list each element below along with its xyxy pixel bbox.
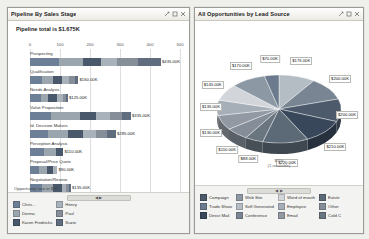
legend-color-swatch (13, 219, 20, 226)
close-icon[interactable] (180, 11, 186, 17)
pie-chart-area: $175.00K$200.00K$200.00K$210.00K$220.00K… (195, 21, 363, 177)
pie-center-count: (1 available) (268, 163, 291, 168)
bar-segment[interactable] (66, 94, 68, 102)
legend-item[interactable]: Henry (56, 201, 76, 208)
bar-segment[interactable] (51, 112, 80, 120)
bar-row[interactable]: Qualification$160.00K (30, 69, 187, 87)
legend-label: Paul (65, 211, 74, 216)
legend-item[interactable]: Chris... (13, 201, 52, 208)
bar-segment[interactable] (56, 148, 64, 156)
legend-item[interactable]: Cold C (319, 212, 341, 219)
legend-color-swatch (56, 201, 63, 208)
bar-row[interactable]: Id. Decision Makers$285.00K (30, 123, 187, 141)
bar-segment[interactable] (59, 58, 83, 66)
bar-track: $160.00K (30, 76, 97, 84)
legend-item[interactable]: Email (278, 212, 315, 219)
bar-segment[interactable] (53, 166, 58, 174)
bar-row[interactable]: Prospecting$435.00K (30, 51, 187, 69)
left-legend-bar: ◀ ▶ Chris...DonnaKaren FredricksHenryPau… (8, 192, 189, 233)
bar-row[interactable]: Needs Analysis$125.00K (30, 87, 187, 105)
bar-segment[interactable] (30, 58, 59, 66)
bar-segment[interactable] (39, 166, 47, 174)
bar-segment[interactable] (30, 130, 48, 138)
legend-color-swatch (236, 212, 243, 219)
legend-item[interactable]: Suzie (56, 219, 76, 226)
pipeline-by-sales-stage-panel: Pipeline By Sales Stage Pipeline total i… (7, 7, 190, 234)
bar-segment[interactable] (42, 76, 53, 84)
bar-value-label: $110.00K (65, 148, 83, 156)
bar-category-label: Negotiation/Review (30, 177, 67, 183)
legend-item[interactable]: Word of mouth (278, 194, 315, 201)
legend-item[interactable]: Conference (236, 212, 274, 219)
desktop-background: Pipeline By Sales Stage Pipeline total i… (0, 0, 369, 239)
bar-value-label: $135.00K (72, 184, 90, 192)
legend-item[interactable]: Self Generated (236, 203, 274, 210)
bar-segment[interactable] (41, 94, 49, 102)
bar-segment[interactable] (138, 58, 161, 66)
legend-item[interactable]: Employee (278, 203, 315, 210)
legend-item[interactable]: Donna (13, 210, 52, 217)
bar-segment[interactable] (107, 130, 116, 138)
legend-item[interactable]: Karen Fredricks (13, 219, 52, 226)
legend-item[interactable]: Other (319, 203, 341, 210)
bar-row[interactable]: Perception Analysis$110.00K (30, 141, 187, 159)
bar-segment[interactable] (44, 148, 56, 156)
bar-segment[interactable] (48, 130, 68, 138)
bar-row[interactable]: Proposal/Price Quote$90.00K (30, 159, 187, 177)
legend-color-swatch (278, 194, 285, 201)
pie-value-label: $145.00K (202, 81, 224, 89)
legend-item[interactable]: Existir (319, 194, 341, 201)
bar-category-label: Prospecting (30, 51, 53, 57)
restore-icon[interactable] (164, 11, 170, 17)
bar-segment[interactable] (96, 112, 110, 120)
bar-segment[interactable] (75, 76, 78, 84)
maximize-icon[interactable] (172, 11, 178, 17)
bar-segment[interactable] (30, 166, 39, 174)
legend-item[interactable]: Paul (56, 210, 76, 217)
bar-segment[interactable] (62, 76, 70, 84)
bar-category-label: Qualification (30, 69, 54, 75)
legend-label: Suzie (65, 220, 76, 225)
bar-segment[interactable] (30, 148, 44, 156)
bar-row[interactable]: Value Proposition$335.00K (30, 105, 187, 123)
maximize-icon[interactable] (346, 11, 352, 17)
bar-segment[interactable] (30, 112, 51, 120)
legend-color-swatch (56, 210, 63, 217)
bar-segment[interactable] (96, 130, 107, 138)
bar-segment[interactable] (68, 130, 83, 138)
bar-track: $125.00K (30, 94, 87, 102)
pie-value-label: $135.00K (200, 103, 222, 111)
right-panel-titlebar[interactable]: All Opportunities by Lead Source (195, 8, 363, 21)
bar-segment[interactable] (110, 112, 122, 120)
bar-segment[interactable] (53, 76, 62, 84)
bar-segment[interactable] (80, 112, 97, 120)
pie-value-label: $210.00K (324, 143, 346, 151)
pie-value-label: $175.00K (290, 57, 312, 65)
legend-item[interactable]: Web Site (236, 194, 274, 201)
legend-color-swatch (236, 203, 243, 210)
bar-segment[interactable] (30, 76, 42, 84)
bar-segment[interactable] (83, 58, 101, 66)
legend-column: CampaignTrade ShowDirect Mail (200, 194, 232, 219)
bar-segment[interactable] (69, 184, 71, 192)
legend-label: Existir (328, 195, 340, 200)
legend-item[interactable]: Direct Mail (200, 212, 232, 219)
left-panel-titlebar[interactable]: Pipeline By Sales Stage (8, 8, 189, 21)
restore-icon[interactable] (338, 11, 344, 17)
bar-segment[interactable] (83, 130, 97, 138)
left-panel-window-controls (164, 11, 186, 17)
bar-segment[interactable] (117, 58, 138, 66)
legend-color-swatch (200, 203, 207, 210)
legend-label: Trade Show (209, 204, 232, 209)
bar-segment[interactable] (101, 58, 118, 66)
legend-label: Self Generated (245, 204, 274, 209)
legend-item[interactable]: Trade Show (200, 203, 232, 210)
bar-segment[interactable] (122, 112, 131, 120)
legend-color-swatch (236, 194, 243, 201)
legend-item[interactable]: Campaign (200, 194, 232, 201)
bar-segment[interactable] (30, 94, 41, 102)
bar-value-label: $125.00K (69, 94, 87, 102)
close-icon[interactable] (354, 11, 360, 17)
bar-segment[interactable] (48, 94, 57, 102)
legend-color-swatch (319, 194, 326, 201)
